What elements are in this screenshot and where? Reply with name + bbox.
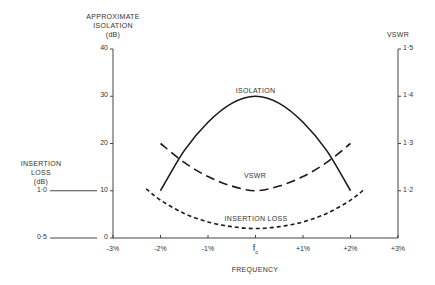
left-axis-tick-label: 20 — [100, 139, 108, 146]
vswr-curve — [161, 144, 351, 191]
insertion-loss-curve-label: INSERTION LOSS — [221, 214, 291, 223]
isolation-curve-label: ISOLATION — [233, 86, 278, 95]
x-axis-label: FREQUENCY — [225, 265, 285, 274]
insertion-loss-axis-label: INSERTION LOSS (dB) — [18, 159, 64, 186]
right-axis-tick-label: 1·5 — [403, 44, 413, 51]
right-axis-tick-label: 1·3 — [403, 139, 413, 146]
x-axis-tick-label: -1% — [193, 245, 223, 252]
chart-canvas — [0, 0, 435, 285]
insertion-loss-tick-label: 1·0 — [37, 186, 47, 193]
vswr-axis-label: VSWR — [383, 30, 413, 39]
left-axis-tick-label: 0 — [104, 233, 108, 240]
x-axis-tick-label: +1% — [288, 245, 318, 252]
x-axis-tick-label: +3% — [383, 245, 413, 252]
isolation-axis-label: APPROXIMATE ISOLATION (dB) — [83, 12, 143, 39]
x-axis-tick-label: +2% — [336, 245, 366, 252]
insertion-axis-label-line1: INSERTION — [18, 159, 64, 168]
x-axis-tick-label: -2% — [146, 245, 176, 252]
left-axis-tick-label: 40 — [100, 44, 108, 51]
left-axis-tick-label: 30 — [100, 91, 108, 98]
x-axis-tick-label-fc: fc — [241, 243, 271, 255]
isolation-axis-label-line1: APPROXIMATE — [83, 12, 143, 21]
right-axis-tick-label: 1·2 — [403, 186, 413, 193]
isolation-axis-label-line2: ISOLATION — [83, 21, 143, 30]
insertion-axis-label-line2: LOSS — [18, 168, 64, 177]
insertion-loss-tick-label: 0·5 — [37, 233, 47, 240]
right-axis-tick-label: 1·4 — [403, 91, 413, 98]
left-axis-tick-label: 10 — [100, 186, 108, 193]
x-axis-tick-label: -3% — [98, 245, 128, 252]
insertion-axis-label-line3: (dB) — [18, 177, 64, 186]
vswr-curve-label: VSWR — [240, 171, 270, 180]
isolation-axis-label-line3: (dB) — [83, 30, 143, 39]
series-layer — [146, 96, 365, 228]
